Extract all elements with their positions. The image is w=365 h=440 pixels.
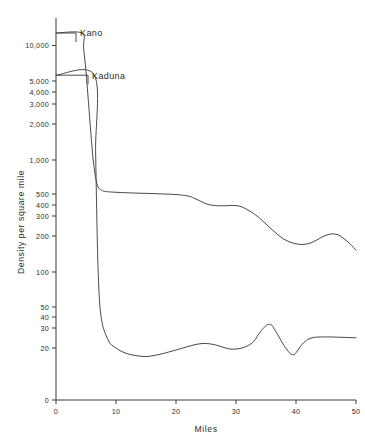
- y-tick-label: 4,000: [30, 88, 50, 97]
- y-tick-label: 2,000: [30, 120, 50, 129]
- x-tick-label: 40: [292, 407, 301, 416]
- y-tick-label: 400: [36, 201, 49, 210]
- y-tick-label: 100: [36, 268, 49, 277]
- density-distance-chart: 10,0005,0004,0003,0002,0001,000500400300…: [0, 0, 365, 440]
- curve-kaduna: [56, 70, 356, 357]
- x-tick-label: 0: [54, 407, 58, 416]
- x-tick-label: 30: [232, 407, 241, 416]
- y-tick-label: 1,000: [30, 156, 50, 165]
- x-tick-label: 10: [112, 407, 121, 416]
- leader-line-kaduna: [56, 75, 88, 84]
- y-tick-label: 30: [40, 324, 49, 333]
- y-tick-label: 40: [40, 313, 49, 322]
- x-axis-ticks: 01020304050: [54, 400, 360, 416]
- series-label-kaduna: Kaduna: [92, 71, 125, 81]
- y-tick-label: 300: [36, 212, 49, 221]
- y-tick-label: 20: [40, 344, 49, 353]
- y-tick-label: 200: [36, 232, 49, 241]
- leader-line-kano: [56, 33, 76, 42]
- y-tick-label: 10,000: [25, 41, 49, 50]
- x-tick-label: 50: [352, 407, 361, 416]
- y-tick-label: 3,000: [30, 100, 50, 109]
- y-tick-label: 500: [36, 190, 49, 199]
- curve-kano: [56, 32, 356, 250]
- x-axis-title: Miles: [194, 424, 217, 434]
- series-label-kano: Kano: [80, 28, 103, 38]
- y-axis-ticks: 10,0005,0004,0003,0002,0001,000500400300…: [25, 41, 56, 405]
- y-tick-label: 50: [40, 303, 49, 312]
- series-annotations: KanoKaduna: [56, 28, 125, 84]
- x-tick-label: 20: [172, 407, 181, 416]
- y-axis-title: Density per square mile: [16, 170, 26, 274]
- y-tick-label: 0: [45, 396, 49, 405]
- y-tick-label: 5,000: [30, 77, 50, 86]
- chart-figure: 10,0005,0004,0003,0002,0001,000500400300…: [0, 0, 365, 440]
